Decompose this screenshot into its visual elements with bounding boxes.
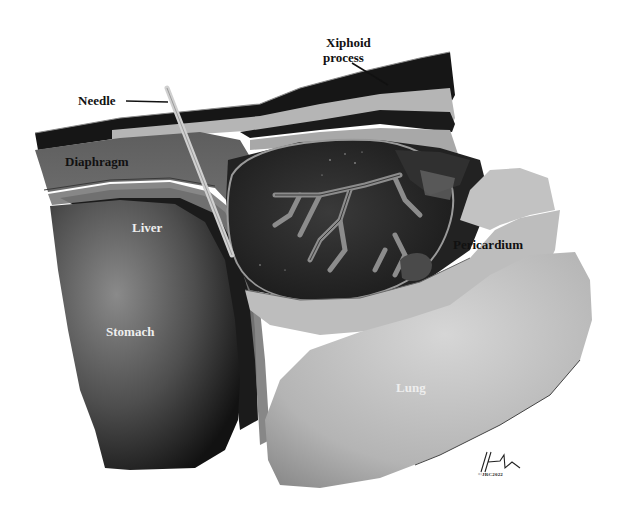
- label-pericardium: Pericardium: [453, 238, 523, 252]
- label-xiphoid-line1: Xiphoid: [326, 36, 371, 50]
- artist-signature: [481, 452, 520, 472]
- label-xiphoid-line2: process: [323, 51, 364, 65]
- copyright-text: ©JRC2022: [478, 472, 503, 477]
- label-liver: Liver: [132, 221, 162, 235]
- anatomy-drawing: [0, 0, 622, 515]
- label-stomach: Stomach: [106, 325, 154, 339]
- label-lung: Lung: [396, 381, 426, 395]
- pericardiocentesis-illustration: Needle Xiphoid process Diaphragm Liver S…: [0, 0, 622, 515]
- label-diaphragm: Diaphragm: [65, 155, 129, 169]
- needle-leader-line: [126, 101, 168, 102]
- label-needle: Needle: [78, 94, 116, 108]
